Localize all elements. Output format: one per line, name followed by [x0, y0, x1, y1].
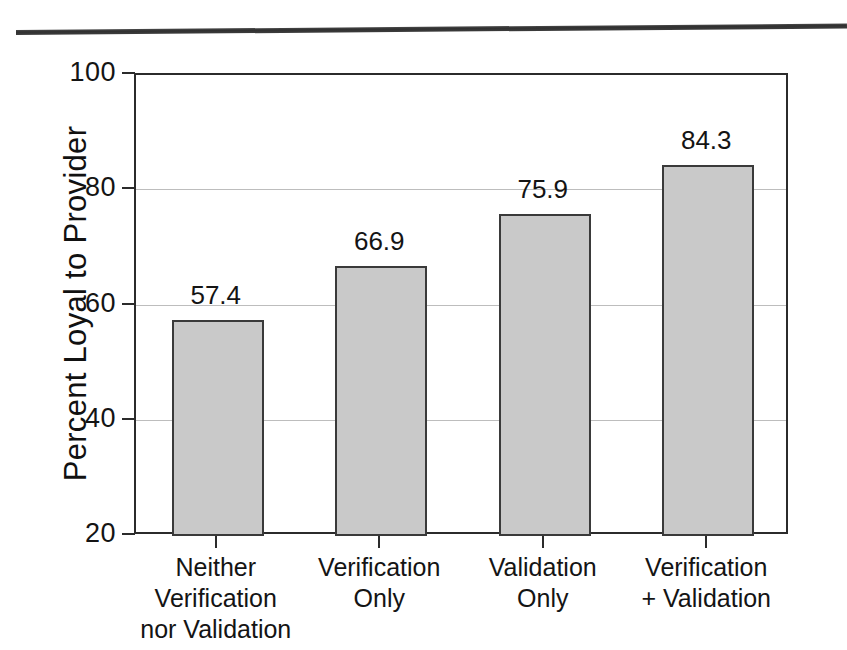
x-tick-mark [215, 534, 217, 548]
y-tick-label: 40 [44, 405, 116, 432]
x-axis-category-label: Verification+ Validation [606, 552, 806, 614]
y-tick-label: 80 [44, 174, 116, 201]
y-tick-label: 100 [44, 59, 116, 86]
x-tick-mark [542, 534, 544, 548]
x-axis-category-label-line: nor Validation [116, 614, 316, 645]
bar-value-label: 66.9 [299, 228, 459, 254]
bar-value-label: 84.3 [626, 127, 786, 153]
y-tick-label: 60 [44, 290, 116, 317]
bar-chart-figure: Percent Loyal to Provider 10080604020 57… [0, 0, 847, 650]
x-tick-mark [705, 534, 707, 548]
bar-value-label: 57.4 [136, 282, 296, 308]
x-axis-category-label-line: + Validation [606, 583, 806, 614]
y-tick-label: 20 [44, 520, 116, 547]
bar [662, 165, 754, 536]
bar [172, 320, 264, 536]
bar [499, 214, 591, 536]
bar [335, 266, 427, 536]
bar-value-label: 75.9 [463, 176, 623, 202]
x-tick-mark [378, 534, 380, 548]
x-axis-category-label-line: Verification [606, 552, 806, 583]
